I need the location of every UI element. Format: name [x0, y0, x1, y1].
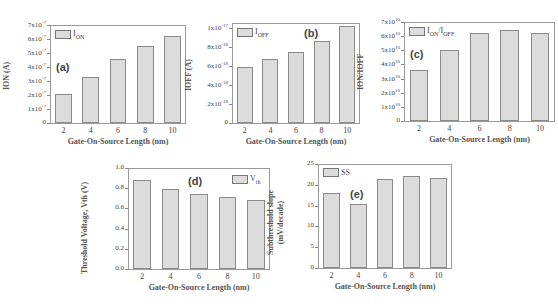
y-tick-mark [47, 109, 50, 110]
y-tick-label: 7x10-7 [6, 20, 46, 29]
panel-label: (b) [304, 27, 318, 39]
bar-c-4 [440, 50, 459, 121]
legend: ION/IOFF [409, 26, 454, 37]
x-tick-label: 10 [162, 126, 182, 135]
legend-swatch-icon [409, 27, 425, 36]
y-tick-mark [401, 50, 404, 51]
y-tick-label: 1.0 [84, 163, 124, 171]
y-tick-label: 7x1010 [360, 17, 400, 26]
x-tick-label: 4 [81, 126, 101, 135]
x-axis-label: Gate-On-Source Length (nm) [232, 137, 360, 146]
y-tick-label: 25 [274, 159, 314, 167]
bar-e-4 [350, 204, 367, 268]
legend-label: ION [73, 29, 84, 40]
x-tick-label: 6 [189, 272, 209, 281]
y-tick-label: 6x1010 [360, 31, 400, 40]
x-tick-label: 8 [402, 271, 422, 280]
x-tick-label: 4 [260, 126, 280, 135]
y-tick-label: 0.4 [84, 224, 124, 232]
bar-c-8 [500, 30, 519, 121]
bar-b-10 [339, 26, 355, 123]
y-tick-mark [47, 67, 50, 68]
y-tick-mark [47, 25, 50, 26]
x-axis-label: Gate-On-Source Length (nm) [128, 283, 270, 292]
legend: Vth [232, 174, 260, 185]
bar-a-10 [164, 36, 181, 123]
y-tick-label: 3x10-7 [6, 76, 46, 85]
y-tick-mark [47, 81, 50, 82]
y-tick-label: 0.6 [84, 203, 124, 211]
y-tick-mark [229, 28, 232, 29]
panel-label: (c) [410, 48, 423, 60]
bar-c-2 [410, 70, 429, 121]
x-tick-label: 10 [337, 126, 357, 135]
y-tick-label: 10 [274, 221, 314, 229]
y-tick-label: 2x10-7 [6, 90, 46, 99]
bar-a-4 [82, 77, 99, 123]
x-tick-label: 2 [321, 271, 341, 280]
y-tick-mark [125, 269, 128, 270]
bar-a-6 [110, 59, 127, 123]
bar-a-8 [137, 46, 154, 123]
x-tick-label: 10 [429, 271, 449, 280]
x-tick-label: 10 [530, 124, 550, 133]
y-tick-mark [229, 104, 232, 105]
legend-label: SS [341, 168, 350, 177]
bar-e-2 [323, 193, 340, 268]
y-tick-label: 2x1010 [360, 88, 400, 97]
bar-b-2 [237, 67, 253, 123]
y-tick-label: 15 [274, 201, 314, 209]
bar-e-6 [377, 179, 394, 268]
y-tick-mark [315, 206, 318, 207]
y-tick-label: 6x10-7 [6, 34, 46, 43]
x-tick-label: 2 [235, 126, 255, 135]
x-tick-label: 6 [108, 126, 128, 135]
y-tick-label: 4x10-18 [188, 80, 228, 89]
y-tick-label: 2x10-18 [188, 99, 228, 108]
bar-b-4 [262, 59, 278, 123]
legend-swatch-icon [237, 28, 253, 37]
x-tick-label: 8 [217, 272, 237, 281]
y-tick-label: 5x1010 [360, 45, 400, 54]
bar-c-6 [470, 33, 489, 121]
y-tick-mark [315, 247, 318, 248]
y-tick-mark [401, 22, 404, 23]
panel-label: (a) [56, 61, 69, 73]
legend-label: IOFF [255, 27, 269, 38]
y-tick-label: 20 [274, 180, 314, 188]
y-tick-label: 4x10-7 [6, 62, 46, 71]
y-tick-mark [125, 249, 128, 250]
y-tick-label: 0 [6, 118, 46, 126]
y-tick-label: 1x10-7 [6, 104, 46, 113]
y-tick-mark [125, 208, 128, 209]
y-tick-label: 3x1010 [360, 74, 400, 83]
y-tick-mark [315, 268, 318, 269]
bar-b-8 [314, 41, 330, 123]
y-tick-label: 5 [274, 242, 314, 250]
legend-swatch-icon [232, 175, 248, 184]
x-tick-label: 8 [500, 124, 520, 133]
y-tick-mark [401, 93, 404, 94]
x-tick-label: 6 [375, 271, 395, 280]
y-tick-mark [401, 64, 404, 65]
y-tick-mark [47, 123, 50, 124]
x-tick-label: 4 [161, 272, 181, 281]
y-tick-mark [229, 85, 232, 86]
bar-d-4 [162, 189, 180, 269]
y-tick-mark [229, 47, 232, 48]
x-axis-label: Gate-On-Source Length (nm) [404, 135, 555, 144]
legend: ION [55, 29, 84, 40]
y-tick-mark [47, 95, 50, 96]
y-tick-label: 0.2 [84, 244, 124, 252]
x-tick-label: 8 [312, 126, 332, 135]
y-tick-mark [47, 53, 50, 54]
y-tick-mark [401, 36, 404, 37]
x-axis-label: Gate-On-Source Length (nm) [318, 282, 452, 291]
y-tick-label: 5x10-7 [6, 48, 46, 57]
y-tick-label: 0 [360, 116, 400, 124]
bar-c-10 [531, 33, 550, 121]
x-tick-label: 10 [246, 272, 266, 281]
y-tick-mark [315, 185, 318, 186]
y-tick-label: 6x10-18 [188, 61, 228, 70]
bar-e-8 [403, 176, 420, 268]
